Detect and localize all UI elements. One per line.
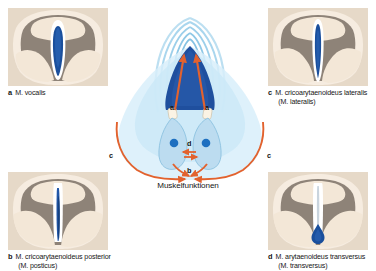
panel-d-subtitle: (M. transversus) [278, 262, 368, 271]
panel-a-index: a [8, 88, 12, 97]
panel-d-index: d [268, 252, 272, 261]
marker-b: b [187, 167, 191, 174]
figure-root: aM. vocalis bM. cricoarytaenoideus poste… [0, 0, 376, 271]
panel-b-caption: bM. cricoarytaenoideus posterior (M. pos… [8, 253, 111, 270]
marker-d: d [187, 140, 191, 147]
panel-a-title: M. vocalis [15, 89, 45, 97]
marker-a-left: a [170, 104, 174, 111]
panel-a: aM. vocalis [8, 8, 108, 98]
panel-b-index: b [8, 252, 12, 261]
panel-a-image [8, 8, 108, 86]
marker-c-right: c [267, 152, 271, 159]
marker-a-right: a [205, 104, 209, 111]
panel-a-caption: aM. vocalis [8, 89, 108, 98]
marker-c-left: c [109, 152, 113, 159]
panel-d-title: M. arytaenoideus transversus [276, 253, 366, 261]
center-label: Muskelfunktionen [0, 181, 376, 190]
panel-b-subtitle: (M. posticus) [18, 262, 111, 271]
panel-d-caption: dM. arytaenoideus transversus (M. transv… [268, 253, 368, 270]
central-schematic: a a d b c c [95, 0, 285, 200]
panel-c-subtitle: (M. lateralis) [278, 98, 368, 107]
panel-c-title: M. cricoarytaenoideus lateralis [275, 89, 367, 97]
panel-b-title: M. cricoarytaenoideus posterior [16, 253, 111, 261]
